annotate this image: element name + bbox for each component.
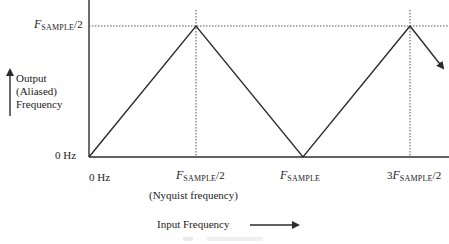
nyquist-note: (Nyquist frequency) <box>149 190 238 201</box>
aliased-frequency-curve <box>89 26 410 157</box>
y-axis-label: Output (Aliased) Frequency <box>16 72 62 111</box>
y-label-line-1: Output <box>16 72 62 85</box>
x-tick-three-fs-half: 3FSAMPLE/2 <box>387 169 441 183</box>
aliasing-diagram <box>0 0 449 244</box>
x-tick-zero: 0 Hz <box>89 172 110 183</box>
y-label-line-3: Frequency <box>16 98 62 111</box>
x-tick-fs-half: FSAMPLE/2 <box>176 169 225 183</box>
cutoff-caption <box>183 237 263 241</box>
y-tick-fs-half: FSAMPLE/2 <box>34 18 83 32</box>
x-tick-fs: FSAMPLE <box>280 169 320 183</box>
continuation-arrow <box>410 26 443 68</box>
y-label-line-2: (Aliased) <box>16 85 62 98</box>
x-axis-label: Input Frequency <box>157 219 229 230</box>
y-tick-zero: 0 Hz <box>55 150 76 161</box>
